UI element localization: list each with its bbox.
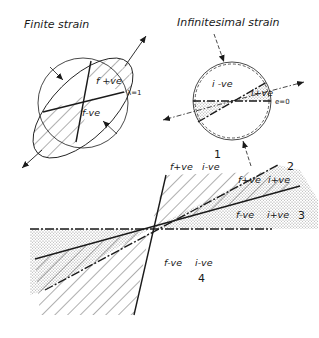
lambda-label: λ=1 <box>127 89 141 97</box>
infinitesimal-positive-label: i+ve <box>251 87 273 98</box>
shortening-arrow-n <box>214 34 224 62</box>
infinitesimal-strain-panel: Infinitesimal strain i -ve i+ve e=0 <box>163 16 304 166</box>
sector-4-number: 4 <box>198 272 205 285</box>
finite-strain-panel: Finite strain f +ve f-ve λ=1 <box>10 18 150 175</box>
finite-positive-label: f +ve <box>96 75 122 86</box>
sector-2-i-label: i+ve <box>268 174 290 185</box>
sector-1-number: 1 <box>214 148 221 161</box>
sector-3-i-label: i+ve <box>267 209 289 220</box>
sector-1-f-label: f+ve <box>170 161 193 172</box>
extension-arrow-ne <box>125 36 146 66</box>
infinitesimal-strain-title: Infinitesimal strain <box>177 16 280 29</box>
sector-3-f-label: f-ve <box>236 209 254 220</box>
infinitesimal-positive-sector-sw <box>193 101 233 122</box>
sector-3-number: 3 <box>298 209 305 222</box>
shortening-arrow-nw <box>50 67 63 80</box>
sector-2-number: 2 <box>287 160 294 173</box>
sector-2-f-label: f+ve <box>238 174 261 185</box>
finite-strain-title: Finite strain <box>24 18 89 31</box>
sector-4-i-label: i-ve <box>195 257 213 268</box>
sector-1-i-label: i-ve <box>202 161 220 172</box>
infinitesimal-negative-label: i -ve <box>212 78 233 89</box>
finite-negative-label: f-ve <box>82 107 100 118</box>
strain-diagram: Finite strain f +ve f-ve λ=1 Infinitesim… <box>0 0 319 338</box>
e-zero-label: e=0 <box>275 98 290 106</box>
sector-4-f-label: f-ve <box>164 257 182 268</box>
fan-diagram: 1 f+ve i-ve 2 f+ve i+ve f-ve i+ve 3 f-ve… <box>0 145 318 338</box>
